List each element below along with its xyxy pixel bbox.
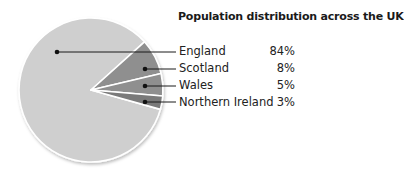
legend-value-wales: 5%: [255, 78, 295, 92]
leader-dot-england: [55, 50, 60, 55]
legend-value-scotland: 8%: [255, 61, 295, 75]
legend-value-northern-ireland: 3%: [255, 95, 295, 109]
legend-value-england: 84%: [255, 44, 295, 58]
legend-label-wales: Wales: [179, 78, 213, 92]
legend-label-scotland: Scotland: [179, 61, 229, 75]
chart-title: Population distribution across the UK: [178, 10, 404, 23]
leader-dot-northern-ireland: [143, 100, 148, 105]
legend-label-england: England: [179, 44, 226, 58]
leader-dot-wales: [143, 84, 148, 89]
leader-dot-scotland: [143, 67, 148, 72]
